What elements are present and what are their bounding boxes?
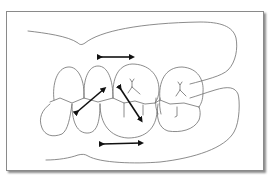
- lower-tooth-4-fissure: [175, 107, 177, 117]
- upper-gum-outline: [28, 22, 237, 84]
- dental-occlusion-diagram: [0, 0, 274, 179]
- upper-teeth: [50, 64, 203, 107]
- lower-tooth-2: [72, 104, 100, 133]
- figure-canvas: Line drawing of upper and lower posterio…: [0, 0, 274, 179]
- movement-arrows: [77, 57, 141, 144]
- lower-horizontal-arrow: [102, 143, 141, 144]
- upper-tooth-4-fissure: [176, 82, 186, 96]
- right-diagonal-arrow: [120, 88, 141, 120]
- upper-tooth-1: [54, 67, 85, 100]
- lower-gum-outline: [46, 88, 239, 163]
- upper-tooth-3: [113, 64, 159, 103]
- lower-tooth-3: [100, 104, 157, 138]
- upper-tooth-4: [160, 67, 203, 107]
- lower-teeth: [40, 98, 200, 138]
- upper-tooth-3-fissure: [128, 79, 140, 94]
- lower-tooth-4: [157, 104, 200, 132]
- lower-tooth-1: [40, 104, 72, 136]
